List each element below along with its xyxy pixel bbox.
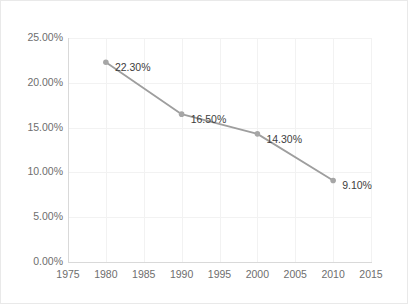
x-axis-tick-label: 2010 [313,268,353,280]
x-axis-tick-label: 2005 [275,268,315,280]
data-point-label: 9.10% [342,179,372,191]
y-axis-tick-label: 0.00% [0,255,63,267]
data-point-marker[interactable] [255,131,261,137]
x-axis-tick-label: 1990 [162,268,202,280]
data-point-label: 16.50% [191,113,227,125]
y-axis-tick-label: 15.00% [0,121,63,133]
y-axis-tick-label: 5.00% [0,210,63,222]
x-axis-tick-label: 1995 [200,268,240,280]
data-point-marker[interactable] [103,59,109,65]
y-axis-tick-label: 20.00% [0,76,63,88]
data-point-label: 22.30% [115,61,151,73]
data-point-label: 14.30% [266,133,302,145]
data-point-marker[interactable] [179,111,185,117]
x-axis-tick-label: 1975 [48,268,88,280]
x-axis-tick-label: 2015 [351,268,391,280]
x-axis-tick-label: 1980 [86,268,126,280]
line-chart: 0.00%5.00%10.00%15.00%20.00%25.00%197519… [0,0,408,304]
x-axis-tick-label: 1985 [124,268,164,280]
y-axis-tick-label: 10.00% [0,165,63,177]
data-point-marker[interactable] [330,178,336,184]
y-axis-tick-label: 25.00% [0,31,63,43]
x-axis-tick-label: 2000 [237,268,277,280]
